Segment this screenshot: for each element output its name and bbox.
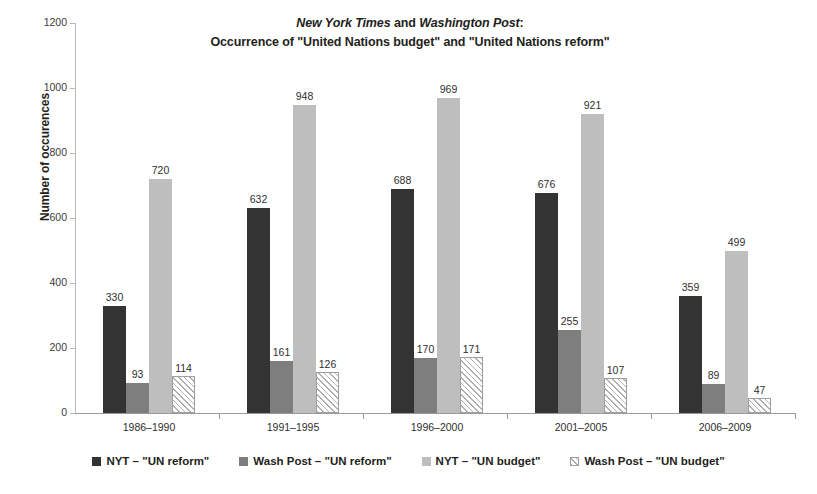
bar: 171 [460,357,483,413]
y-axis-tick [70,218,75,219]
bar-value-label: 499 [728,236,746,248]
bar-value-label: 93 [132,368,144,380]
y-axis-tick-label: 800 [27,146,67,158]
legend-label: Wash Post – "UN budget" [584,455,724,467]
y-axis-tick-label: 400 [27,276,67,288]
bar: 676 [535,193,558,413]
bar-value-label: 676 [538,178,556,190]
x-axis-category-label: 2006–2009 [665,421,785,433]
bar-value-label: 688 [394,174,412,186]
x-axis-tick [651,413,652,419]
legend-swatch-icon [570,457,579,466]
bar-value-label: 632 [250,193,268,205]
bar-value-label: 114 [175,362,192,374]
bar-value-label: 720 [152,164,170,176]
x-axis-tick [363,413,364,419]
bar: 330 [103,306,126,413]
legend-item[interactable]: NYT – "UN budget" [422,455,541,467]
bar: 688 [391,189,414,413]
y-axis-tick [70,88,75,89]
bar-value-label: 89 [708,369,720,381]
bar: 89 [702,384,725,413]
legend-swatch-icon [239,457,248,466]
bar: 632 [247,208,270,413]
legend-label: Wash Post – "UN reform" [253,455,391,467]
bar-value-label: 126 [319,358,337,370]
y-axis-line [75,23,76,413]
bar-value-label: 921 [584,99,602,111]
bar-value-label: 47 [754,384,766,396]
bar: 359 [679,296,702,413]
y-axis-tick-label: 600 [27,211,67,223]
bar: 47 [748,398,771,413]
bar: 126 [316,372,339,413]
legend-label: NYT – "UN reform" [106,455,209,467]
x-axis-category-label: 1991–1995 [233,421,353,433]
y-axis-tick [70,413,75,414]
bar-value-label: 170 [417,343,435,355]
bar: 499 [725,251,748,413]
bar-value-label: 330 [106,291,124,303]
bar-value-label: 948 [296,90,314,102]
y-axis-tick-label: 1200 [27,16,67,28]
y-axis-tick-label: 0 [27,406,67,418]
bar: 948 [293,105,316,413]
bar: 93 [126,383,149,413]
y-axis-tick [70,283,75,284]
bar: 255 [558,330,581,413]
bar: 170 [414,358,437,413]
x-axis-line [75,413,795,414]
chart-figure: New York Times and Washington Post: Occu… [0,0,817,494]
x-axis-category-label: 1996–2000 [377,421,497,433]
y-axis-tick-label: 1000 [27,81,67,93]
x-axis-category-label: 2001–2005 [521,421,641,433]
bar: 107 [604,378,627,413]
legend-swatch-icon [92,457,101,466]
bar-value-label: 161 [273,346,291,358]
legend-item[interactable]: Wash Post – "UN reform" [239,455,391,467]
bar: 720 [149,179,172,413]
legend-item[interactable]: NYT – "UN reform" [92,455,209,467]
bar: 161 [270,361,293,413]
x-axis-tick [507,413,508,419]
bar: 921 [581,114,604,413]
y-axis-tick-label: 200 [27,341,67,353]
y-axis-tick [70,348,75,349]
chart-legend: NYT – "UN reform"Wash Post – "UN reform"… [0,455,817,467]
bar-value-label: 107 [607,364,625,376]
bar: 114 [172,376,195,413]
bar: 969 [437,98,460,413]
x-axis-tick [795,413,796,419]
y-axis-tick [70,23,75,24]
x-axis-tick [219,413,220,419]
x-axis-category-label: 1986–1990 [89,421,209,433]
legend-swatch-icon [422,457,431,466]
bar-value-label: 255 [561,315,579,327]
bar-value-label: 969 [440,83,458,95]
bar-value-label: 171 [463,343,481,355]
y-axis-tick [70,153,75,154]
legend-item[interactable]: Wash Post – "UN budget" [570,455,724,467]
plot-area: 020040060080010001200330937201141986–199… [75,23,795,413]
legend-label: NYT – "UN budget" [436,455,541,467]
bar-value-label: 359 [682,281,700,293]
